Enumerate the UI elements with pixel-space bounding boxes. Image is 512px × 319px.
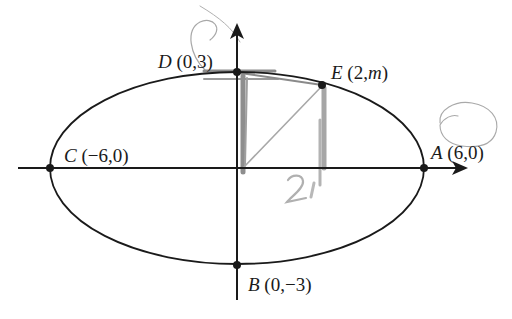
label-a-coords: (6,0)	[447, 142, 483, 163]
pencil-diagonal	[243, 86, 322, 168]
label-e-open: (2,	[347, 62, 368, 83]
point-e	[318, 81, 326, 89]
label-e-close: )	[382, 62, 388, 83]
handwritten-two	[287, 176, 306, 202]
pencil-circle-a	[440, 102, 497, 146]
label-e: E (2,m)	[331, 63, 388, 82]
label-d-coords: (0,3)	[176, 51, 212, 72]
label-d: D (0,3)	[158, 52, 213, 71]
label-a-letter: A	[431, 142, 443, 163]
point-a	[420, 164, 428, 172]
handwritten-stroke	[311, 183, 314, 197]
label-d-letter: D	[158, 51, 172, 72]
label-b-letter: B	[248, 274, 260, 295]
handwritten-note	[287, 176, 314, 202]
point-c	[46, 164, 54, 172]
point-d	[233, 68, 241, 76]
label-a: A (6,0)	[431, 143, 484, 162]
ellipse-diagram: D (0,3) E (2,m) C (−6,0) A (6,0) B (0,−3…	[0, 0, 512, 319]
label-e-var: m	[368, 62, 382, 83]
label-c: C (−6,0)	[64, 146, 129, 165]
point-b	[233, 261, 241, 269]
label-b-coords: (0,−3)	[264, 274, 311, 295]
label-b: B (0,−3)	[248, 275, 311, 294]
label-e-letter: E	[331, 62, 343, 83]
label-c-coords: (−6,0)	[81, 145, 128, 166]
label-e-coords: (2,m)	[347, 62, 388, 83]
label-c-letter: C	[64, 145, 77, 166]
